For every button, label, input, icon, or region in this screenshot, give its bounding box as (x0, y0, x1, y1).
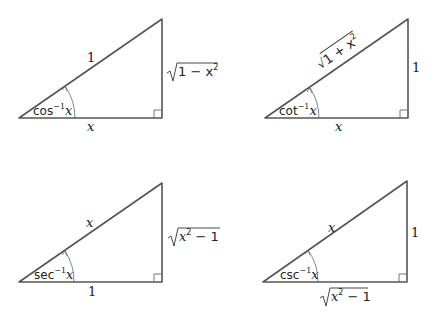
exponent: −1 (299, 266, 311, 275)
right-angle-marker (154, 110, 162, 118)
hypotenuse-label: 1 (87, 51, 95, 64)
fn-name: cot (279, 104, 298, 118)
variable: x (66, 267, 73, 282)
fn-name: cos (33, 104, 53, 118)
right-angle-marker (400, 110, 408, 118)
opposite-label-text: − 1 (191, 229, 218, 244)
opposite-label: 1 (411, 226, 419, 239)
angle-label: cot−1x (279, 104, 317, 117)
angle-label: cos−1x (33, 104, 72, 117)
fn-name: csc (280, 268, 299, 282)
arrowhead-icon (305, 250, 310, 255)
opposite-label: 1 − x2 (178, 65, 218, 78)
adjacent-label: x2 − 1 (331, 290, 371, 303)
right-angle-marker (154, 274, 162, 282)
adjacent-label: x (87, 120, 94, 133)
opposite-label-text: 1 − x (178, 64, 213, 79)
adjacent-label-text: − 1 (343, 289, 370, 304)
hypotenuse-label: x (86, 216, 93, 229)
hypotenuse-label: x (328, 221, 335, 234)
opposite-label: x2 − 1 (179, 230, 219, 243)
opposite-label: 1 (412, 61, 420, 74)
exponent: −1 (53, 102, 65, 111)
exponent: −1 (54, 266, 66, 275)
angle-label: sec−1x (34, 268, 73, 281)
adjacent-label: x (335, 120, 342, 133)
exponent: −1 (298, 102, 310, 111)
fn-name: sec (34, 268, 54, 282)
right-angle-marker (399, 274, 407, 282)
variable: x (311, 267, 318, 282)
variable: x (65, 103, 72, 118)
variable: x (309, 103, 316, 118)
adjacent-label: 1 (88, 285, 96, 298)
angle-label: csc−1x (280, 268, 319, 281)
exponent: 2 (213, 63, 218, 72)
